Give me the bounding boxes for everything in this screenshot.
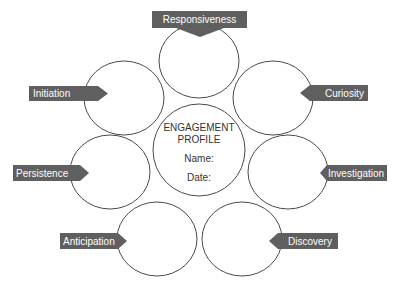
banner-label: Curiosity <box>325 88 364 99</box>
banner-label: Initiation <box>33 88 70 99</box>
petal-circle-investigation <box>248 135 328 209</box>
center-title-line1: ENGAGEMENT <box>163 122 234 133</box>
name-label: Name: <box>184 153 213 164</box>
date-label: Date: <box>187 172 211 183</box>
banner-responsiveness: Responsiveness <box>152 11 247 37</box>
banner-label: Discovery <box>288 236 332 247</box>
banner-label: Responsiveness <box>163 14 236 25</box>
banner-label: Persistence <box>16 168 69 179</box>
banner-investigation: Investigation <box>320 165 387 181</box>
engagement-profile-diagram: ENGAGEMENT PROFILE Name: Date: Responsiv… <box>0 0 400 285</box>
banner-discovery: Discovery <box>269 233 338 249</box>
banner-curiosity: Curiosity <box>300 85 368 101</box>
banner-anticipation: Anticipation <box>60 233 127 249</box>
petal-circle-curiosity <box>233 61 313 135</box>
banner-label: Investigation <box>328 168 384 179</box>
banner-initiation: Initiation <box>29 86 108 101</box>
banner-persistence: Persistence <box>13 165 89 181</box>
petal-circle-discovery <box>202 202 282 276</box>
banner-label: Anticipation <box>63 236 115 247</box>
petal-circle-anticipation <box>117 202 197 276</box>
center-title-line2: PROFILE <box>178 134 221 145</box>
